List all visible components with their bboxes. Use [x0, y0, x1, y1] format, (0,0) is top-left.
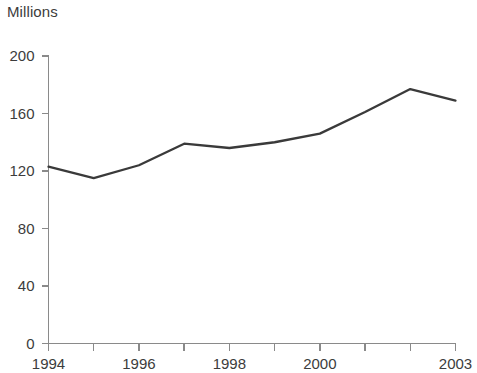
x-axis-ticks — [49, 344, 456, 351]
y-axis-ticks — [42, 56, 49, 344]
x-axis-tick-label: 1994 — [14, 355, 84, 372]
y-axis-tick-label: 160 — [0, 105, 35, 122]
y-axis-tick-label: 0 — [0, 335, 35, 352]
x-axis-tick-label: 1998 — [194, 355, 264, 372]
y-axis-tick-label: 40 — [0, 277, 35, 294]
x-axis-tick-label: 2000 — [285, 355, 355, 372]
y-axis-tick-label: 200 — [0, 47, 35, 64]
x-axis-tick-label: 1996 — [104, 355, 174, 372]
y-axis-tick-label: 80 — [0, 220, 35, 237]
y-axis-tick-label: 120 — [0, 162, 35, 179]
x-axis-tick-label: 2003 — [421, 355, 477, 372]
axes-group — [48, 56, 456, 344]
data-series-line — [49, 89, 456, 178]
